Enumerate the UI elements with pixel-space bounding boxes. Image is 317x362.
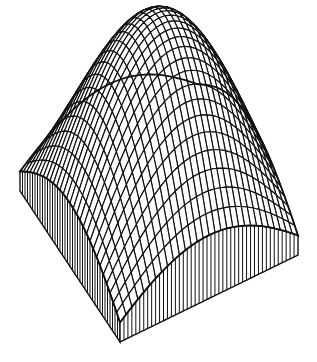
surface-plot: [0, 0, 317, 362]
